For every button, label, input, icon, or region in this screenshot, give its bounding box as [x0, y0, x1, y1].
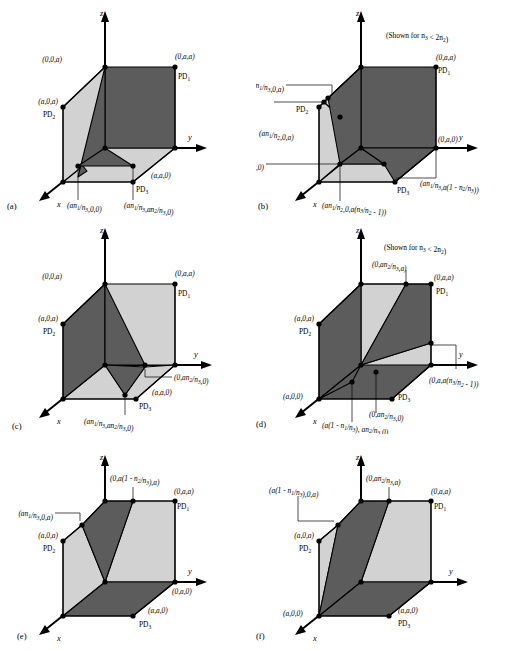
vertex-a-0-a-label-f: (a,0,a)	[294, 531, 314, 540]
vertex-an1n3-a-term-label-b: (an1/n3,a(1 - n2/n3))	[420, 179, 479, 195]
pd1-label-e: PD1	[177, 502, 189, 512]
panel-e-diagram: z y x (0,a(1 - n2/n3),a) (0,a,a) PD1 (an…	[0, 434, 256, 651]
vertex-0-an2n3-a-label-f: (0,an2/n3,a)	[366, 474, 401, 487]
axis-label-z-f: z	[355, 453, 360, 462]
vertex-a-a-0-label-c: (a,a,0)	[152, 388, 172, 397]
note-b: (Shown for n3 < 2n2)	[386, 31, 449, 44]
vertex-0-a-0-label-e: (0,a,0)	[172, 587, 192, 596]
pd1-label-f: PD1	[434, 502, 446, 512]
vertex-a-term-0-a-label-f: (a(1 - n1/n3),0,a)	[269, 486, 319, 499]
panel-b-diagram: z y x (Shown for n3 < 2n2) (an1/n3,0,a) …	[256, 0, 512, 217]
panel-f: z y x (0,an2/n3,a) (0,a,a) PD1 (a(1 - n1…	[256, 434, 512, 651]
vertex-an1n3-0-a-label-b: (an1/n3,0,a)	[256, 81, 285, 94]
panel-label-d: (d)	[256, 419, 266, 429]
panel-label-c: (c)	[12, 421, 22, 431]
axis-label-z-b: z	[355, 9, 360, 18]
pd3-label-f: PD3	[398, 619, 410, 629]
vertex-an1n3-an2n3-0-label-a: (an1/n3,an2/n3,0)	[124, 201, 174, 217]
panel-d: z y x (Shown for n3 < 2n2) (0,an2/n3,a) …	[256, 217, 512, 434]
vertex-a-0-a-label-e: (a,0,a)	[38, 531, 58, 540]
axis-label-x-a: x	[56, 200, 61, 209]
panel-d-diagram: z y x (Shown for n3 < 2n2) (0,an2/n3,a) …	[256, 217, 512, 434]
vertex-0-an2n3-0-label-c: (0,an2/n3,0)	[174, 373, 209, 386]
vertex-a-term-an2n3-0-label-d: (a(1 - n1/n3), an2/n3,0)	[322, 421, 389, 434]
vertex-an1n3-an2n3-0-label-c: (an1/n3,an2/n3,0)	[84, 417, 134, 433]
pd2-label-f: PD2	[299, 544, 311, 554]
axis-label-z-d: z	[355, 226, 360, 235]
vertex-an1n2-0-a-term-label-b: (an1/n2,0,a(n3/n2 - 1))	[322, 201, 387, 217]
vertex-an1n3-0-0-label-a: (an1/n3,0,0)	[67, 201, 102, 214]
vertex-0-a-a-label-a: (0,a,a)	[175, 52, 195, 61]
vertex-an1n2-0-a-label-b: (an1/n2,0,a)	[259, 129, 294, 142]
figure-container: z y x (0,0,a) (0,a,a) PD1 (a,0,a) PD2 (a…	[0, 0, 512, 651]
pd1-label-b: PD1	[438, 66, 450, 76]
axis-label-x-b: x	[312, 200, 317, 209]
panel-label-f: (f)	[256, 631, 265, 641]
vertex-a-a-0-label-a: (a,a,0)	[151, 171, 171, 180]
panel-b: z y x (Shown for n3 < 2n2) (an1/n3,0,a) …	[256, 0, 512, 217]
axis-label-y-e: y	[187, 567, 192, 576]
axis-label-x-d: x	[312, 417, 317, 426]
panel-c: z y x (0,0,a) (0,a,a) PD1 (a,0,a) PD2 (0…	[0, 217, 256, 434]
axis-label-x-f: x	[312, 634, 317, 643]
axis-label-z-a: z	[99, 9, 104, 18]
vertex-a-a-0-label-f: (a,a,0)	[398, 606, 418, 615]
vertex-a-0-a-label-d: (a,0,a)	[294, 314, 314, 323]
axis-label-y-c: y	[193, 350, 198, 359]
pd3-label-b: PD3	[397, 186, 409, 196]
panel-a-diagram: z y x (0,0,a) (0,a,a) PD1 (a,0,a) PD2 (a…	[0, 0, 256, 217]
vertex-0-an2n3-a-label-d: (0,an2/n3,a)	[372, 260, 407, 273]
axis-label-x-c: x	[56, 417, 61, 426]
pd3-label-e: PD3	[139, 620, 151, 630]
panel-label-b: (b)	[258, 201, 268, 211]
panel-a: z y x (0,0,a) (0,a,a) PD1 (a,0,a) PD2 (a…	[0, 0, 256, 217]
vertex-0-0-a-label-c: (0,0,a)	[42, 272, 62, 281]
vertex-0-a-a-label-f: (0,a,a)	[431, 487, 451, 496]
pd1-label-c: PD1	[178, 289, 190, 299]
panel-e: z y x (0,a(1 - n2/n3),a) (0,a,a) PD1 (an…	[0, 434, 256, 651]
panel-label-e: (e)	[17, 631, 27, 641]
panel-f-diagram: z y x (0,an2/n3,a) (0,a,a) PD1 (a(1 - n1…	[256, 434, 512, 651]
pd2-label-b: PD2	[296, 105, 308, 115]
vertex-0-an2n3-0-label-d: (0,an2/n3,0)	[369, 410, 404, 423]
vertex-0-a-a-term-label-d: (0,a,a(n3/n2 - 1))	[429, 376, 479, 389]
vertex-an1n3-0-a-label-e: (an1/n3,0,a)	[18, 509, 53, 522]
axis-label-z-c: z	[99, 226, 104, 235]
vertex-0-a-a-label-b: (0,a,a)	[436, 53, 456, 62]
vertex-0-0-a-label-a: (0,0,a)	[42, 55, 62, 64]
vertex-0-a-a-label-d: (0,a,a)	[434, 273, 454, 282]
pd1-label-d: PD1	[436, 287, 448, 297]
axis-label-z-e: z	[99, 453, 104, 462]
vertex-a-0-a-label-a: (a,0,a)	[38, 97, 58, 106]
pd1-label-a: PD1	[178, 72, 190, 82]
axis-label-y-f: y	[448, 567, 453, 576]
panel-c-diagram: z y x (0,0,a) (0,a,a) PD1 (a,0,a) PD2 (0…	[0, 217, 256, 434]
axis-label-y-a: y	[187, 133, 192, 142]
vertex-a-a-0-label-e: (a,a,0)	[148, 606, 168, 615]
pd3-label-c: PD3	[139, 402, 151, 412]
vertex-0-a-a-label-c: (0,a,a)	[175, 269, 195, 278]
vertex-a-0-a-label-c: (a,0,a)	[38, 314, 58, 323]
note-d: (Shown for n3 < 2n2)	[384, 243, 447, 256]
vertex-0-a-a-label-e: (0,a,a)	[174, 487, 194, 496]
axis-label-y-b: y	[458, 133, 463, 142]
vertex-an1n3-0-0-label-b: (an1/n3,0,0)	[256, 159, 265, 172]
pd2-label-d: PD2	[299, 327, 311, 337]
axis-label-x-e: x	[56, 634, 61, 643]
pd3-label-a: PD3	[136, 185, 148, 195]
pd3-label-d: PD3	[398, 393, 410, 403]
axis-label-y-d: y	[458, 350, 463, 359]
pd2-label-a: PD2	[43, 110, 55, 120]
pd2-label-c: PD2	[43, 327, 55, 337]
pd2-label-e: PD2	[43, 544, 55, 554]
vertex-a-0-0-label-d: (a,0,0)	[283, 392, 303, 401]
vertex-0-a-term-a-label-e: (0,a(1 - n2/n3),a)	[110, 474, 160, 487]
panel-label-a: (a)	[7, 201, 17, 211]
vertex-a-0-0-label-f: (a,0,0)	[283, 609, 303, 618]
vertex-0-a-0-label-b: (0,a,0)	[438, 135, 458, 144]
